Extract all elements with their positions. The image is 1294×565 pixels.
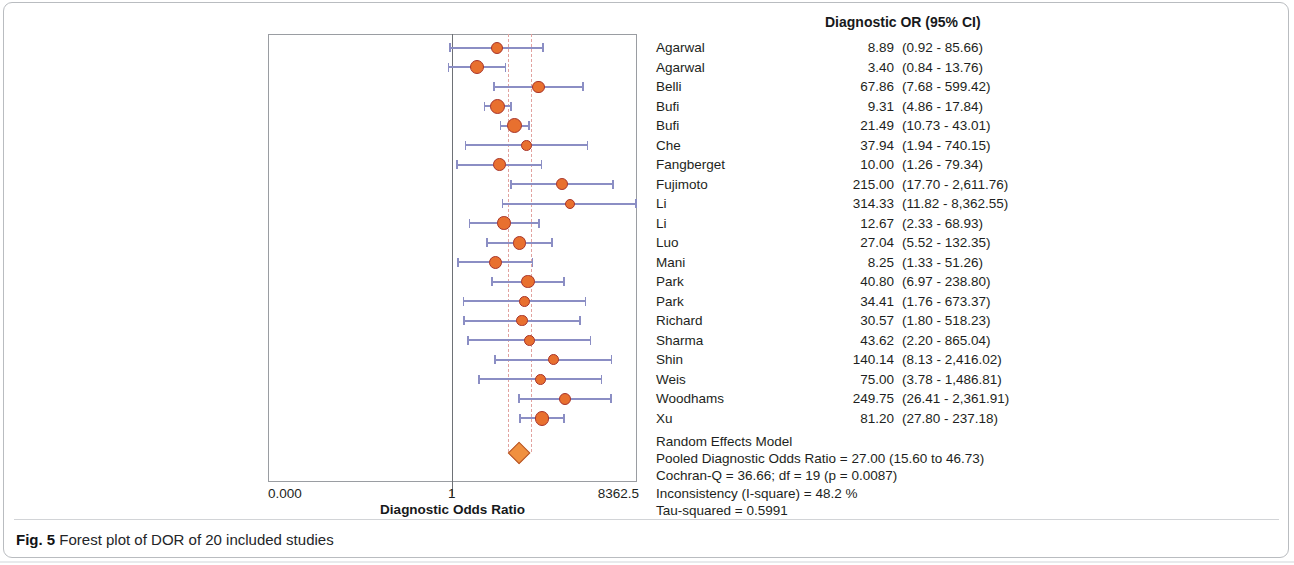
ci-cap-upper <box>510 102 512 111</box>
ci-cap-lower <box>463 297 465 306</box>
ci-cap-upper <box>611 355 613 364</box>
study-name: Belli <box>656 77 682 97</box>
ci-cap-upper <box>612 180 614 189</box>
ci-cap-lower <box>518 394 520 403</box>
study-name: Agarwal <box>656 38 705 58</box>
point-estimate-marker <box>490 99 505 114</box>
forest-row <box>0 38 1294 58</box>
study-odds-ratio: 34.41 <box>838 292 894 312</box>
point-estimate-marker <box>559 393 571 405</box>
forest-plot-rows <box>0 0 1294 565</box>
ci-cap-upper <box>563 414 565 423</box>
forest-row <box>0 214 1294 234</box>
ci-cap-lower <box>449 43 451 52</box>
study-name: Agarwal <box>656 58 705 78</box>
forest-row <box>0 389 1294 409</box>
forest-row <box>0 58 1294 78</box>
study-name: Mani <box>656 253 685 273</box>
point-estimate-marker <box>535 374 546 385</box>
point-estimate-marker <box>556 178 568 190</box>
study-odds-ratio: 67.86 <box>838 77 894 97</box>
study-name: Shin <box>656 350 683 370</box>
point-estimate-marker <box>521 140 532 151</box>
study-name: Li <box>656 214 667 234</box>
study-odds-ratio: 8.25 <box>838 253 894 273</box>
caption-text: Forest plot of DOR of 20 included studie… <box>59 531 333 548</box>
summary-tau-squared: Tau-squared = 0.5991 <box>656 502 984 519</box>
point-estimate-marker <box>519 296 530 307</box>
study-confidence-interval: (27.80 - 237.18) <box>902 409 998 429</box>
forest-row <box>0 233 1294 253</box>
forest-row <box>0 253 1294 273</box>
study-odds-ratio: 27.04 <box>838 233 894 253</box>
forest-row <box>0 116 1294 136</box>
ci-cap-lower <box>456 160 458 169</box>
study-confidence-interval: (1.26 - 79.34) <box>902 155 983 175</box>
study-confidence-interval: (10.73 - 43.01) <box>902 116 991 136</box>
point-estimate-marker <box>497 216 511 230</box>
study-name: Sharma <box>656 331 703 351</box>
forest-row <box>0 97 1294 117</box>
ci-cap-upper <box>635 199 637 208</box>
ci-cap-lower <box>510 180 512 189</box>
study-confidence-interval: (5.52 - 132.35) <box>902 233 991 253</box>
study-name: Fujimoto <box>656 175 708 195</box>
point-estimate-marker <box>513 236 527 250</box>
study-confidence-interval: (8.13 - 2,416.02) <box>902 350 1002 370</box>
study-confidence-interval: (6.97 - 238.80) <box>902 272 991 292</box>
pooled-effect-diamond <box>508 443 530 463</box>
ci-cap-lower <box>465 141 467 150</box>
study-name: Li <box>656 194 667 214</box>
ci-cap-lower <box>448 63 450 72</box>
ci-cap-upper <box>532 258 534 267</box>
ci-cap-upper <box>582 82 584 91</box>
forest-row <box>0 409 1294 429</box>
summary-pooled-or: Pooled Diagnostic Odds Ratio = 27.00 (15… <box>656 450 984 467</box>
ci-cap-lower <box>478 375 480 384</box>
study-odds-ratio: 140.14 <box>838 350 894 370</box>
caption-label: Fig. 5 <box>16 531 55 548</box>
study-name: Woodhams <box>656 389 724 409</box>
ci-cap-lower <box>463 316 465 325</box>
ci-cap-lower <box>469 219 471 228</box>
ci-cap-upper <box>528 121 530 130</box>
diamond-shape <box>508 442 531 465</box>
study-odds-ratio: 8.89 <box>838 38 894 58</box>
ci-cap-upper <box>590 336 592 345</box>
ci-cap-upper <box>541 160 543 169</box>
study-odds-ratio: 9.31 <box>838 97 894 117</box>
study-odds-ratio: 37.94 <box>838 136 894 156</box>
page-bottom-rule <box>0 561 1294 563</box>
ci-cap-upper <box>585 297 587 306</box>
study-odds-ratio: 43.62 <box>838 331 894 351</box>
point-estimate-marker <box>535 411 550 426</box>
forest-row <box>0 370 1294 390</box>
ci-cap-lower <box>486 238 488 247</box>
point-estimate-marker <box>524 335 535 346</box>
study-odds-ratio: 314.33 <box>838 194 894 214</box>
study-odds-ratio: 3.40 <box>838 58 894 78</box>
study-name: Richard <box>656 311 703 331</box>
study-name: Xu <box>656 409 673 429</box>
ci-cap-lower <box>494 355 496 364</box>
caption-divider <box>14 519 1279 520</box>
study-confidence-interval: (17.70 - 2,611.76) <box>902 175 1008 195</box>
study-odds-ratio: 40.80 <box>838 272 894 292</box>
study-name: Weis <box>656 370 686 390</box>
point-estimate-marker <box>565 199 575 209</box>
study-confidence-interval: (7.68 - 599.42) <box>902 77 991 97</box>
study-confidence-interval: (3.78 - 1,486.81) <box>902 370 1002 390</box>
ci-cap-upper <box>542 43 544 52</box>
ci-cap-upper <box>551 238 553 247</box>
table-header-diagnostic-or: Diagnostic OR (95% CI) <box>825 14 981 30</box>
forest-row <box>0 175 1294 195</box>
ci-cap-lower <box>484 102 486 111</box>
x-axis-title: Diagnostic Odds Ratio <box>380 502 525 517</box>
ci-cap-lower <box>491 277 493 286</box>
study-name: Bufi <box>656 97 679 117</box>
forest-row <box>0 311 1294 331</box>
summary-inconsistency: Inconsistency (I-square) = 48.2 % <box>656 485 984 502</box>
study-name: Fangberget <box>656 155 725 175</box>
point-estimate-marker <box>470 60 484 74</box>
study-name: Park <box>656 272 684 292</box>
